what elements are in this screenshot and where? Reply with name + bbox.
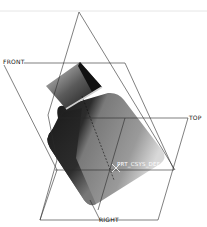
solid-model — [46, 62, 165, 205]
top-plane-label[interactable]: TOP — [189, 115, 202, 121]
front-plane-label[interactable]: FRONT — [3, 59, 25, 65]
model-graphics — [0, 0, 207, 227]
model-viewport[interactable]: FRONT TOP RIGHT PRT_CSYS_DEF — [0, 0, 207, 227]
csys-label[interactable]: PRT_CSYS_DEF — [117, 162, 160, 168]
right-plane-label[interactable]: RIGHT — [99, 217, 119, 223]
